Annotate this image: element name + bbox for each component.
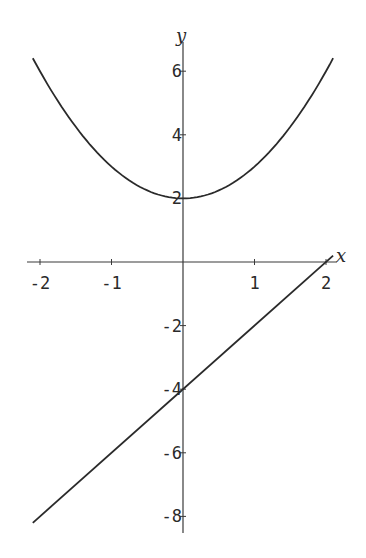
- y-ticks: 642-2-4-6-8: [162, 61, 186, 526]
- axes: x y: [27, 25, 346, 533]
- y-tick-label: -2: [162, 316, 182, 336]
- y-tick-label: 6: [172, 61, 182, 81]
- x-tick-label: -1: [101, 273, 121, 293]
- y-axis-label: y: [175, 25, 187, 46]
- plot-area: x y -2-112 642-2-4-6-8: [0, 0, 366, 558]
- x-tick-label: 2: [321, 273, 331, 293]
- y-tick-label: -6: [162, 443, 182, 463]
- x-ticks: -2-112: [30, 259, 331, 293]
- y-tick-label: -4: [162, 379, 182, 399]
- y-tick-label: -8: [162, 506, 182, 526]
- x-tick-label: -2: [30, 273, 50, 293]
- y-tick-label: 4: [172, 125, 182, 145]
- x-tick-label: 1: [249, 273, 259, 293]
- x-axis-label: x: [336, 245, 346, 266]
